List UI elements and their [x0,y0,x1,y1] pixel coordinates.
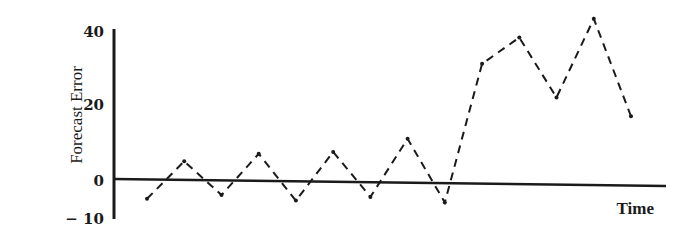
data-point [294,199,298,203]
forecast-error-series-line [147,19,631,203]
y-tick-label-40: 40 [83,23,104,41]
x-axis-title: Time [617,199,655,218]
y-axis-title: Forecast Error [67,66,86,164]
y-tick-label-neg10: − 10 [65,210,104,228]
data-point [480,62,484,66]
data-point [517,36,521,40]
data-point [182,159,186,163]
data-points [145,17,633,205]
data-point [592,17,596,21]
y-tick-label-20: 20 [83,96,104,114]
data-point [555,96,559,100]
y-axis-title-group: Forecast Error [67,66,86,164]
data-point [406,137,410,141]
data-point [629,114,633,118]
x-axis [113,179,666,186]
data-point [257,152,261,156]
data-point [331,150,335,154]
data-point [443,201,447,205]
y-tick-label-0: 0 [94,172,104,190]
forecast-error-chart: Forecast Error 40 20 0 − 10 Time [0,0,681,242]
data-point [145,197,149,201]
data-point [368,195,372,199]
data-point [220,193,224,197]
